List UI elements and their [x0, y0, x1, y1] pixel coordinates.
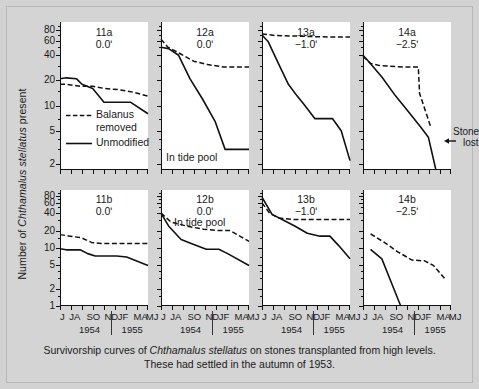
- series-14b-balanus-removed: [371, 234, 446, 280]
- x-tick-12a-7: [238, 170, 239, 174]
- plot-area-14b: [363, 190, 451, 306]
- x-tick-14b-2: [385, 306, 386, 310]
- curves-12b: [161, 190, 249, 306]
- y-tick-label-11a-5: 5: [49, 126, 55, 136]
- x-tick-13a-5: [317, 170, 318, 174]
- x-tick-14b-6: [429, 306, 430, 310]
- x-tick-11a-3: [93, 170, 94, 174]
- plot-area-11b: 8060402010521: [60, 190, 148, 306]
- series-13a-balanus-removed: [262, 34, 350, 37]
- x-month-label-3-JA: JA: [372, 311, 383, 322]
- year-divider-1: [212, 311, 213, 335]
- x-tick-11a-6: [126, 170, 127, 174]
- x-tick-13b-4: [306, 306, 307, 310]
- x-tick-14b-8: [450, 306, 451, 310]
- series-14a-unmodified: [363, 55, 436, 170]
- curves-13a: [262, 22, 350, 170]
- x-tick-11b-6: [126, 306, 127, 310]
- caption-line-1: Survivorship curves of Chthamalus stella…: [0, 343, 479, 357]
- x-tick-12b-7: [238, 306, 239, 310]
- x-tick-12b-0: [161, 306, 162, 310]
- plot-area-14a: [363, 22, 451, 170]
- legend-entry-unmodified: Unmodified: [66, 136, 149, 149]
- series-12a-unmodified: [161, 47, 249, 149]
- x-tick-12b-4: [205, 306, 206, 310]
- curves-11b: [60, 190, 148, 306]
- x-month-label-2-J: J: [262, 311, 267, 322]
- x-year-label-3-right: 1955: [425, 324, 446, 335]
- x-tick-11b-5: [115, 306, 116, 310]
- year-divider-0: [111, 311, 112, 335]
- x-tick-11b-3: [93, 306, 94, 310]
- figure-container: Number of Chthamalus stellatus present 8…: [0, 0, 479, 389]
- x-month-label-0-JA: JA: [69, 311, 80, 322]
- x-month-label-1-JF: JF: [219, 311, 230, 322]
- x-tick-13a-2: [284, 170, 285, 174]
- x-tick-14a-3: [396, 170, 397, 174]
- x-month-label-3-SO: SO: [389, 311, 403, 322]
- panel-note-12b: In tide pool: [174, 216, 225, 228]
- legend-entry-balanus-removed: Balanusremoved: [66, 108, 149, 133]
- y-axis-title: Number of Chthamalus stellatus present: [16, 59, 28, 309]
- panel-note-12a: In tide pool: [166, 151, 217, 163]
- legend-label-balanus-removed: Balanusremoved: [96, 108, 137, 133]
- x-tick-11a-7: [137, 170, 138, 174]
- x-tick-13b-3: [295, 306, 296, 310]
- caption-line-1-post: on stones transplanted from high levels.: [247, 344, 436, 356]
- series-13a-unmodified: [262, 35, 350, 161]
- plot-area-13a: [262, 22, 350, 170]
- y-tick-label-11b-1: 1: [49, 301, 55, 311]
- x-tick-14a-2: [385, 170, 386, 174]
- x-tick-11a-1: [71, 170, 72, 174]
- x-tick-14a-7: [440, 170, 441, 174]
- x-tick-11a-5: [115, 170, 116, 174]
- year-divider-2: [313, 311, 314, 335]
- y-axis-title-post: present: [16, 88, 28, 127]
- x-tick-13a-0: [262, 170, 263, 174]
- x-month-label-2-SO: SO: [288, 311, 302, 322]
- x-tick-12a-8: [248, 170, 249, 174]
- x-tick-14b-1: [374, 306, 375, 310]
- x-tick-13b-2: [284, 306, 285, 310]
- y-tick-label-11b-2: 2: [49, 284, 55, 294]
- x-month-label-1-J: J: [161, 311, 166, 322]
- x-year-label-1-left: 1954: [180, 324, 201, 335]
- x-tick-13b-8: [349, 306, 350, 310]
- x-tick-14a-0: [363, 170, 364, 174]
- series-11b-balanus-removed: [60, 235, 148, 244]
- x-tick-12a-0: [161, 170, 162, 174]
- x-tick-11b-2: [82, 306, 83, 310]
- x-month-label-3-J: J: [363, 311, 368, 322]
- x-tick-12b-3: [194, 306, 195, 310]
- x-tick-13b-5: [317, 306, 318, 310]
- y-tick-label-11b-20: 20: [44, 226, 55, 236]
- x-year-label-0-right: 1955: [122, 324, 143, 335]
- x-year-label-3-left: 1954: [382, 324, 403, 335]
- x-tick-11b-0: [60, 306, 61, 310]
- x-tick-12a-5: [216, 170, 217, 174]
- y-tick-label-11a-10: 10: [44, 101, 55, 111]
- caption-species: Chthamalus stellatus: [150, 344, 247, 356]
- x-year-label-2-right: 1955: [324, 324, 345, 335]
- x-tick-14b-5: [418, 306, 419, 310]
- x-tick-12b-1: [172, 306, 173, 310]
- x-tick-11a-8: [147, 170, 148, 174]
- x-tick-11b-1: [71, 306, 72, 310]
- x-tick-12a-2: [183, 170, 184, 174]
- x-tick-13a-8: [349, 170, 350, 174]
- x-year-label-0-left: 1954: [79, 324, 100, 335]
- x-tick-14a-5: [418, 170, 419, 174]
- x-month-label-0-SO: SO: [86, 311, 100, 322]
- x-month-label-0-J: J: [60, 311, 65, 322]
- legend-key-solid-icon: [66, 142, 92, 145]
- x-year-label-2-left: 1954: [281, 324, 302, 335]
- legend-label-unmodified: Unmodified: [96, 136, 149, 149]
- x-tick-14b-4: [407, 306, 408, 310]
- x-tick-12b-5: [216, 306, 217, 310]
- legend: BalanusremovedUnmodified: [66, 108, 149, 152]
- x-tick-13a-1: [273, 170, 274, 174]
- stone-lost-arrow-icon: [443, 136, 457, 146]
- x-month-label-3-MJ: MJ: [449, 311, 462, 322]
- x-tick-11a-4: [104, 170, 105, 174]
- x-tick-12b-8: [248, 306, 249, 310]
